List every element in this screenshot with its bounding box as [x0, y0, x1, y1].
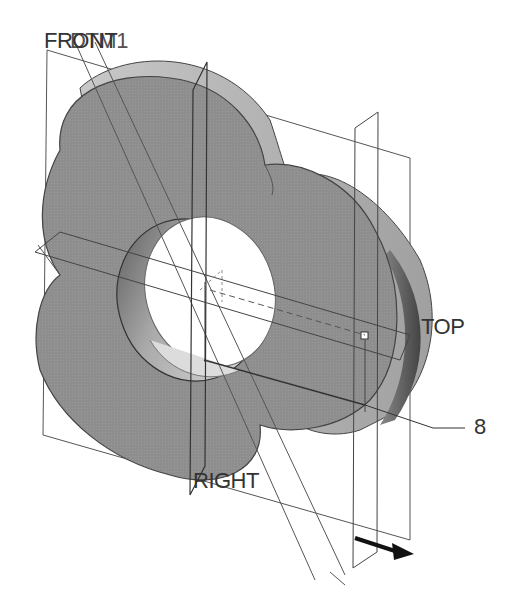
label-right: RIGHT — [193, 470, 259, 492]
label-dtm1: DTM1 — [70, 30, 128, 52]
cad-drawing: FRONT DTM1 TOP RIGHT 8 — [0, 0, 510, 594]
part-geometry — [0, 0, 510, 594]
label-top: TOP — [421, 316, 464, 338]
callout-8: 8 — [474, 416, 486, 438]
direction-arrow-icon — [355, 538, 414, 560]
